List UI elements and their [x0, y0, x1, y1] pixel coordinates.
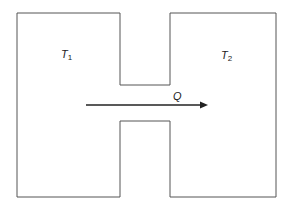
h-shaped-domain [0, 0, 292, 207]
t2-subscript: 2 [228, 54, 232, 63]
label-t2: T2 [221, 50, 232, 63]
q-symbol: Q [173, 90, 182, 102]
label-t1: T1 [61, 49, 72, 62]
t1-symbol: T [61, 48, 68, 60]
label-q: Q [173, 91, 182, 102]
t2-symbol: T [221, 49, 228, 61]
t1-subscript: 1 [68, 53, 72, 62]
arrow-head-icon [200, 102, 208, 109]
